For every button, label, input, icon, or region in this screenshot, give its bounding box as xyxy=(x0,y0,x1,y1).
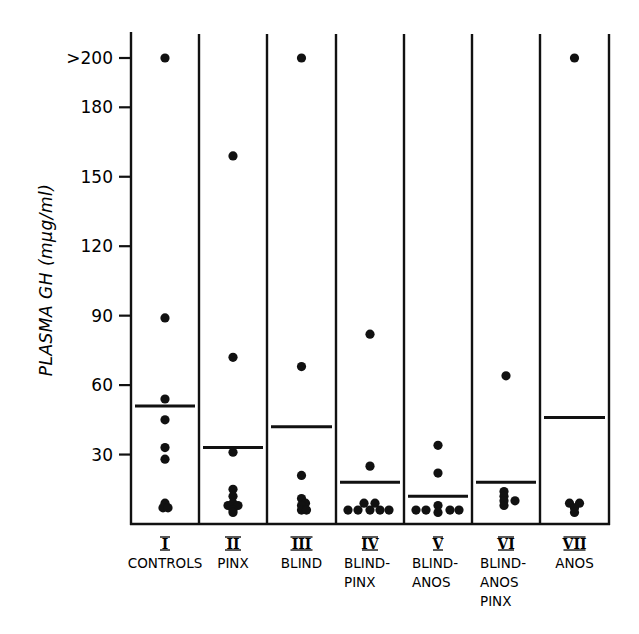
y-axis-label: PLASMA GH (mμg/ml) xyxy=(36,184,56,377)
category-name: ANOS xyxy=(480,574,519,590)
y-tick-label: 90 xyxy=(91,306,113,326)
data-point xyxy=(365,462,374,471)
category-name: PINX xyxy=(344,574,375,590)
data-point xyxy=(510,496,519,505)
x-category-label: IIPINX xyxy=(217,536,248,571)
x-category-label: ICONTROLS xyxy=(128,536,203,571)
category-name: PINX xyxy=(217,555,248,571)
data-point xyxy=(570,508,579,517)
category-name: PINX xyxy=(480,593,511,609)
data-point xyxy=(433,508,442,517)
data-point xyxy=(353,506,362,515)
data-point xyxy=(228,353,237,362)
mean-bars xyxy=(135,406,605,496)
data-point xyxy=(160,394,169,403)
data-point xyxy=(454,506,463,515)
data-point xyxy=(228,151,237,160)
data-point xyxy=(433,468,442,477)
data-point xyxy=(302,506,311,515)
group-panels xyxy=(130,32,610,525)
x-category-label: VBLIND-ANOS xyxy=(412,536,458,590)
category-name: BLIND- xyxy=(480,555,526,571)
data-point xyxy=(499,501,508,510)
data-point xyxy=(163,503,172,512)
data-point xyxy=(384,506,393,515)
category-name: ANOS xyxy=(555,555,594,571)
y-tick-label: 150 xyxy=(81,167,113,187)
y-tick-label: 120 xyxy=(81,236,113,256)
x-category-label: VIIANOS xyxy=(555,536,594,571)
data-point xyxy=(297,471,306,480)
y-axis-title: PLASMA GH (mμg/ml) xyxy=(36,184,56,377)
data-point xyxy=(160,455,169,464)
data-point xyxy=(375,506,384,515)
x-category-label: VIBLIND-ANOSPINX xyxy=(480,536,526,609)
data-point xyxy=(160,415,169,424)
category-name: BLIND- xyxy=(344,555,390,571)
category-name: BLIND- xyxy=(412,555,458,571)
data-point xyxy=(411,506,420,515)
data-point xyxy=(365,330,374,339)
y-tick-label: 60 xyxy=(91,375,113,395)
y-axis: 306090120150180>200 xyxy=(66,48,131,465)
data-point xyxy=(160,443,169,452)
data-point xyxy=(365,506,374,515)
x-category-label: IIIBLIND xyxy=(281,536,322,571)
plasma-gh-chart: PLASMA GH (mμg/ml) 306090120150180>200 I… xyxy=(0,0,639,634)
y-tick-label: >200 xyxy=(66,48,113,68)
data-point xyxy=(228,508,237,517)
data-point xyxy=(359,499,368,508)
data-point xyxy=(160,53,169,62)
data-point xyxy=(445,506,454,515)
data-point xyxy=(501,371,510,380)
category-name: ANOS xyxy=(412,574,451,590)
data-point xyxy=(343,506,352,515)
x-category-label: IVBLIND-PINX xyxy=(344,536,390,590)
data-point xyxy=(570,53,579,62)
y-tick-label: 180 xyxy=(81,97,113,117)
data-point xyxy=(297,53,306,62)
y-tick-label: 30 xyxy=(91,445,113,465)
data-point xyxy=(433,441,442,450)
category-name: CONTROLS xyxy=(128,555,203,571)
data-point xyxy=(160,313,169,322)
category-name: BLIND xyxy=(281,555,322,571)
x-axis-labels: ICONTROLSIIPINXIIIBLINDIVBLIND-PINXVBLIN… xyxy=(128,536,594,609)
data-point xyxy=(297,362,306,371)
data-point xyxy=(421,506,430,515)
